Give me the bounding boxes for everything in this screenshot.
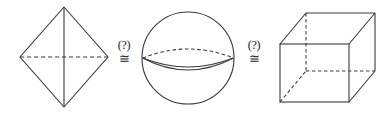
congruent-to-icon: ≅ <box>240 52 268 65</box>
relation-symbol-sphere-cube: (?) ≅ <box>240 39 268 65</box>
congruent-to-icon: ≅ <box>110 52 138 65</box>
shape-octahedron <box>20 7 108 107</box>
sphere-outline <box>142 12 234 104</box>
relation-query-label: (?) <box>240 39 268 51</box>
relation-symbol-octahedron-sphere: (?) ≅ <box>110 39 138 65</box>
cube-edge-top-left-connector <box>280 13 306 44</box>
sphere-equator-front <box>143 58 234 67</box>
cube-edge-bottom-right-connector <box>349 71 375 102</box>
cube-edge-top-right-connector <box>349 13 375 44</box>
sphere-equator-back-dashed <box>143 49 234 58</box>
sphere-lower-meridian-arc <box>143 58 234 70</box>
shape-cube <box>280 13 375 102</box>
geometry-figure: (?) ≅ (?) ≅ <box>0 0 376 119</box>
shape-sphere <box>142 12 234 104</box>
cube-front-face <box>280 44 349 102</box>
cube-hidden-edge-bottom-left-connector <box>280 71 306 102</box>
relation-query-label: (?) <box>110 39 138 51</box>
figure-canvas <box>0 0 376 119</box>
